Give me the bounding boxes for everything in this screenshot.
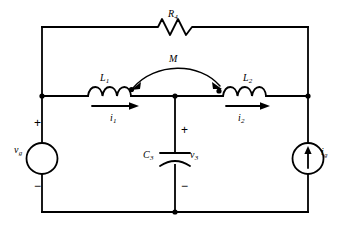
current-arrow-i1	[92, 102, 139, 110]
polarity-c3-minus: −	[181, 180, 188, 192]
inductor-l2	[223, 87, 266, 96]
label-capacitor-c3: C3	[143, 150, 153, 162]
mutual-coupling-arc	[131, 68, 222, 90]
coupling-dot-l2	[216, 88, 221, 93]
circuit-schematic-canvas	[0, 0, 346, 228]
voltage-source-vg	[27, 143, 58, 174]
node-dot-left-middle	[39, 93, 44, 98]
label-inductor-l1: L1	[100, 73, 109, 85]
mutual-arc-arrowhead-left	[131, 82, 141, 90]
label-source-vg: vg	[14, 145, 22, 157]
current-arrow-i2-head	[260, 102, 270, 110]
label-voltage-v3: v3	[190, 150, 198, 162]
label-current-i1: i1	[110, 113, 116, 125]
resistor-r4	[154, 19, 198, 35]
current-arrow-i2	[226, 102, 270, 110]
inductor-l2-coils	[223, 87, 266, 96]
label-mutual-inductance: M	[169, 54, 178, 64]
current-arrow-i1-head	[129, 102, 139, 110]
mutual-arc-curve	[133, 68, 220, 88]
polarity-vg-minus: −	[34, 180, 41, 192]
circuit-diagram: R4 M L1 L2 i1 i2 C3 v3 vg ig + − + −	[0, 0, 346, 228]
node-dot-center	[172, 93, 177, 98]
label-source-ig: ig	[321, 147, 327, 159]
label-resistor-r4: R4	[168, 9, 178, 21]
polarity-c3-plus: +	[181, 124, 188, 136]
inductor-l1-coils	[88, 87, 131, 96]
label-inductor-l2: L2	[243, 73, 252, 85]
capacitor-c3	[160, 153, 190, 166]
node-dot-right-middle	[305, 93, 310, 98]
node-dot-center-bottom	[172, 209, 177, 214]
voltage-source-vg-circle	[27, 143, 58, 174]
label-current-i2: i2	[238, 113, 244, 125]
resistor-r4-zigzag	[154, 19, 198, 35]
inductor-l1	[88, 87, 131, 96]
current-source-ig	[293, 143, 324, 174]
polarity-vg-plus: +	[34, 117, 41, 129]
